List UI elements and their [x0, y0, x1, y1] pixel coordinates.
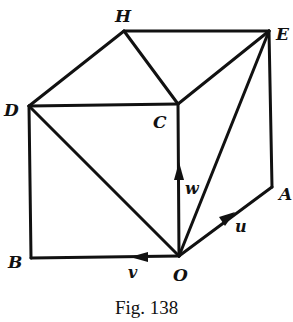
label-A: A [277, 184, 292, 204]
arrow-w-icon [174, 162, 184, 180]
label-D: D [3, 100, 19, 120]
edge-D-C [29, 104, 178, 106]
label-E: E [275, 24, 290, 44]
label-w: w [185, 179, 200, 198]
label-O: O [173, 265, 188, 285]
edge-D-B [29, 106, 31, 258]
figure-caption: Fig. 138 [115, 297, 178, 318]
label-v: v [128, 263, 138, 282]
edge-H-C [124, 31, 178, 104]
edge-B-O [31, 256, 179, 258]
label-H: H [114, 6, 132, 26]
edge-E-A [269, 31, 272, 187]
edge-H-D [29, 31, 124, 106]
label-B: B [7, 252, 22, 272]
label-u: u [235, 217, 247, 236]
arrow-v-icon [130, 252, 148, 262]
label-C: C [153, 112, 167, 132]
parallelepiped-diagram: H E D C B O A w u v Fig. 138 [0, 0, 293, 322]
